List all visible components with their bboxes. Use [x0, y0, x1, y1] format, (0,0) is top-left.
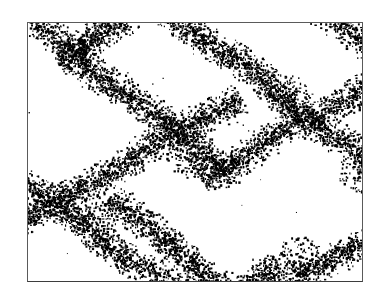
micrograph-dot-map-canvas: [28, 23, 363, 282]
figure-panel-a: a: [0, 0, 385, 305]
micrograph-frame: [27, 22, 363, 282]
caption-row: a: [0, 279, 385, 305]
